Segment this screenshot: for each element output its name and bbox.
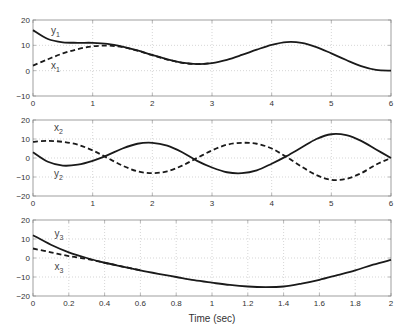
x-tick-label: 5 [329,99,334,108]
y-tick-label: 10 [21,235,30,244]
y-tick-label: 0 [26,254,31,263]
figure: 0123456−1001020y1x1 0123456−20−1001020x2… [0,0,413,335]
x-tick-label: 1 [90,99,95,108]
x-tick-label: 5 [329,199,334,208]
x-tick-label: 4 [269,99,274,108]
x-tick-label: 0.2 [63,299,75,308]
x-tick-label: 3 [210,99,215,108]
x-tick-label: 1 [210,299,215,308]
y-tick-label: −20 [16,292,30,301]
y-tick-label: −10 [16,173,30,182]
y-tick-label: 20 [21,16,30,25]
y-tick-label: 0 [26,154,31,163]
y-tick-label: −20 [16,192,30,201]
x-tick-label: 1.8 [350,299,362,308]
y-tick-label: −10 [16,273,30,282]
subplot-1: 0123456−1001020y1x1 [16,16,393,108]
x-tick-label: 1.6 [314,299,326,308]
x-tick-label: 2 [150,99,155,108]
y-tick-label: 20 [21,216,30,225]
axes-box [33,120,391,196]
subplot-3: 00.20.40.60.811.21.41.61.82−20−1001020y3… [16,216,393,308]
y-tick-label: 0 [26,67,31,76]
x-tick-label: 4 [269,199,274,208]
x-tick-label: 1 [90,199,95,208]
x-tick-label: 3 [210,199,215,208]
x-tick-label: 1.2 [242,299,254,308]
x-tick-label: 1.4 [278,299,290,308]
y-tick-label: −10 [16,92,30,101]
x-tick-label: 0.8 [171,299,183,308]
x-tick-label: 6 [389,199,394,208]
y-tick-label: 10 [21,41,30,50]
x-tick-label: 2 [150,199,155,208]
y-tick-label: 20 [21,116,30,125]
x-tick-label: 0 [31,299,36,308]
subplot-2: 0123456−20−1001020x2y2 [16,116,393,208]
x-axis-label: Time (sec) [189,313,236,324]
axes-box [33,20,391,96]
x-tick-label: 6 [389,99,394,108]
x-tick-label: 0 [31,99,36,108]
y-tick-label: 10 [21,135,30,144]
x-tick-label: 2 [389,299,394,308]
x-tick-label: 0 [31,199,36,208]
x-tick-label: 0.6 [135,299,147,308]
x-tick-label: 0.4 [99,299,111,308]
